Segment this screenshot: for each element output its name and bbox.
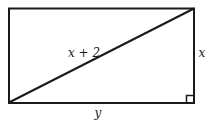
diagonal-line: [9, 9, 194, 103]
bottom-side-label: y: [94, 106, 102, 120]
right-side-label: x: [199, 46, 206, 60]
right-angle-marker: [187, 96, 195, 104]
diagonal-label: x + 2: [68, 46, 100, 60]
rectangle-diagram: x + 2 x y: [0, 0, 209, 123]
